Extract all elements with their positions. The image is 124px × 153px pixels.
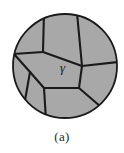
grain-structure-diagram: γ xyxy=(0,0,124,132)
phase-label-gamma: γ xyxy=(60,60,66,75)
figure-caption: (a) xyxy=(0,128,124,146)
figure-container: γ (a) xyxy=(0,0,124,153)
